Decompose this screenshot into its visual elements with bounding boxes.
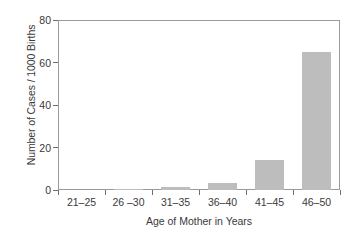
x-tick-mark: [152, 190, 153, 195]
y-tick-label: 0: [7, 185, 51, 195]
bar: [114, 189, 143, 190]
x-axis-title: Age of Mother in Years: [58, 214, 340, 228]
bar: [208, 183, 237, 190]
x-tick-label: 31–35: [152, 196, 199, 208]
x-tick-mark: [340, 190, 341, 195]
x-tick-mark: [105, 190, 106, 195]
x-tick-mark: [58, 190, 59, 195]
bars-layer: [58, 20, 340, 190]
bar: [255, 160, 284, 190]
x-tick-mark: [246, 190, 247, 195]
x-tick-mark: [199, 190, 200, 195]
y-axis-title: Number of Cases / 1000 Births: [22, 0, 40, 190]
x-tick-label: 36–40: [199, 196, 246, 208]
y-tick-label: 40: [7, 100, 51, 110]
y-tick-label: 80: [7, 15, 51, 25]
x-tick-label: 21–25: [58, 196, 105, 208]
bar: [302, 52, 331, 190]
bar-chart-figure: Number of Cases / 1000 Births 020406080 …: [0, 0, 360, 241]
x-tick-label: 26 –30: [105, 196, 152, 208]
x-tick-mark: [293, 190, 294, 195]
x-tick-label: 46–50: [293, 196, 340, 208]
y-tick-label: 20: [7, 143, 51, 153]
bar: [161, 187, 190, 190]
y-tick-label: 60: [7, 58, 51, 68]
x-tick-label: 41–45: [246, 196, 293, 208]
